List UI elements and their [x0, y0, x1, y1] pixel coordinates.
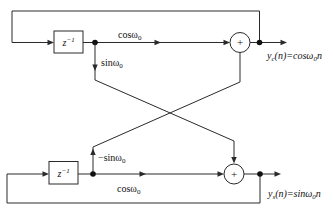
output-label-cosine: yc(n)=cosω0n: [266, 50, 322, 63]
gain-label-sin-top: sinω0: [101, 57, 123, 70]
oscillator-block-diagram: z−1 cosω0 sinω0 + yc(n)=cosω0n z−1: [0, 0, 333, 210]
arrowhead-into-delay-top: [48, 40, 55, 45]
signal-node-bottom: [90, 171, 96, 177]
output-node-top: [257, 40, 263, 46]
arrowhead-into-adder-bottom-left: [218, 171, 225, 176]
arrowhead-into-adder-bottom-top: [231, 157, 236, 164]
arrowhead-output-top: [281, 40, 288, 45]
diagram-canvas: z−1 cosω0 sinω0 + yc(n)=cosω0n z−1: [0, 0, 333, 210]
output-label-sine: ys(n)=sinω0n: [267, 188, 321, 201]
gain-label-negsin-bottom: −sinω0: [98, 152, 126, 165]
gain-label-cos-top: cosω0: [118, 29, 142, 42]
gain-label-cos-bottom: cosω0: [117, 183, 141, 196]
arrowhead-sin-down: [92, 65, 97, 72]
arrowhead-top-rail-mid: [155, 40, 162, 45]
arrowhead-output-bottom: [275, 171, 282, 176]
arrowhead-negsin-up: [90, 149, 95, 156]
output-node-bottom: [257, 171, 263, 177]
plus-sign-top: +: [237, 36, 243, 48]
plus-sign-bottom: +: [231, 168, 237, 180]
arrowhead-into-delay-bottom: [43, 171, 50, 176]
arrowhead-bottom-rail-mid: [140, 171, 147, 176]
arrowhead-into-adder-top: [224, 40, 231, 45]
